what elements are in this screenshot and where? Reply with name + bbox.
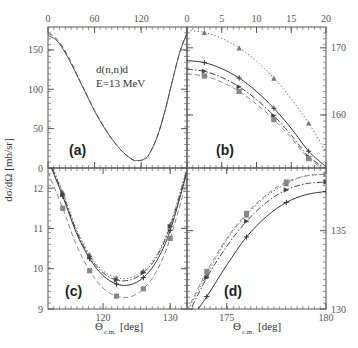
data-point-marker <box>202 73 207 78</box>
data-point-marker <box>284 180 289 185</box>
series-line-curve-3 <box>187 69 326 168</box>
data-point-marker <box>168 236 173 241</box>
panel-a: 060120050100150(a)d(n,n)dE=13 MeV <box>28 13 187 174</box>
x-axis-title-sub: c.m. <box>104 328 116 336</box>
panel-label: (a) <box>69 142 86 158</box>
x-tick-label: 60 <box>90 13 100 24</box>
x-tick-label: 15 <box>286 13 296 24</box>
series-line-curve-2 <box>48 160 187 286</box>
x-tick-label: 10 <box>252 13 262 24</box>
series-group <box>187 172 329 325</box>
x-tick-label: 20 <box>321 13 331 24</box>
y-tick-label: 100 <box>28 84 43 95</box>
data-point-marker <box>306 120 311 125</box>
x-tick-label: 0 <box>46 13 51 24</box>
data-point-marker <box>114 294 119 299</box>
x-axis-title-theta: Θ <box>95 320 103 332</box>
data-point-marker <box>323 172 328 177</box>
data-point-marker <box>244 211 249 216</box>
x-axis-title-theta: Θ <box>233 320 241 332</box>
y-tick-label: 170 <box>331 42 346 53</box>
x-tick-label: 0 <box>185 13 190 24</box>
y-tick-label: 0 <box>38 163 43 174</box>
data-point-marker <box>284 187 289 192</box>
data-point-marker <box>60 206 65 211</box>
y-tick-label: 50 <box>33 123 43 134</box>
y-tick-label: 12 <box>33 183 43 194</box>
panel-frame <box>187 168 326 309</box>
y-tick-label: 10 <box>33 263 43 274</box>
x-tick-label: 5 <box>219 13 224 24</box>
panel-label: (c) <box>65 283 82 299</box>
series-line-curve-4 <box>187 74 326 170</box>
x-tick-label: 175 <box>219 312 234 323</box>
data-point-marker <box>271 117 276 122</box>
data-point-marker <box>237 45 242 50</box>
x-axis-title-unit: [deg] <box>258 320 281 332</box>
data-point-marker <box>237 84 242 89</box>
y-tick-label: 11 <box>33 223 43 234</box>
data-point-marker <box>141 286 146 291</box>
y-tick-label: 9 <box>38 304 43 315</box>
data-point-marker <box>202 30 207 35</box>
panel-d: 175180130135(d) <box>187 168 346 325</box>
figure-canvas: 060120050100150(a)d(n,n)dE=13 MeV0510152… <box>0 0 358 348</box>
series-group <box>48 156 187 299</box>
data-point-marker <box>204 269 209 274</box>
x-axis-title-right: Θ c.m. [deg] <box>233 320 281 336</box>
y-tick-label: 150 <box>28 44 43 55</box>
series-group <box>187 30 326 170</box>
x-tick-label: 130 <box>163 312 178 323</box>
data-point-marker <box>323 189 328 194</box>
data-point-marker <box>237 89 242 94</box>
series-line-curve-1 <box>48 156 187 279</box>
data-point-marker <box>306 156 311 161</box>
x-tick-label: 120 <box>134 13 149 24</box>
y-tick-label: 160 <box>331 109 346 120</box>
data-point-marker <box>284 200 289 205</box>
y-tick-label: 130 <box>331 304 346 315</box>
panel-annotation: E=13 MeV <box>96 77 145 89</box>
panel-b: 05101520160170(b) <box>185 13 347 170</box>
panels: 060120050100150(a)d(n,n)dE=13 MeV0510152… <box>28 13 346 325</box>
x-axis-title-sub: c.m. <box>242 328 254 336</box>
series-line-curve-3 <box>48 158 187 281</box>
x-axis-title-unit: [deg] <box>120 320 143 332</box>
panel-label: (d) <box>224 283 242 299</box>
panel-annotation: d(n,n)d <box>96 63 129 76</box>
series-line-curve-2 <box>187 61 326 167</box>
y-axis-title: dσ/dΩ [mb/sr] <box>2 138 14 201</box>
panel-c: 1201309101112(c) <box>33 156 187 323</box>
data-point-marker <box>202 69 207 74</box>
y-tick-label: 135 <box>331 225 346 236</box>
data-point-marker <box>87 268 92 273</box>
panel-label: (b) <box>216 142 234 158</box>
data-point-marker <box>202 60 207 65</box>
x-axis-title-left: Θ c.m. [deg] <box>95 320 143 336</box>
